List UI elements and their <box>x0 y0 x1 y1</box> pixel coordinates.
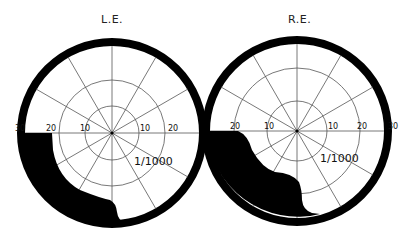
right-label-10b: 10 <box>328 122 338 131</box>
left-label-20b: 20 <box>168 124 178 133</box>
left-label-10a: 10 <box>80 124 90 133</box>
right-eye-chart: 20 10 10 20 30 1/1000 <box>206 40 398 222</box>
left-label-10b: 10 <box>140 124 150 133</box>
left-label-20: 20 <box>46 124 56 133</box>
right-field-loss <box>207 131 320 217</box>
right-label-10a: 10 <box>264 122 274 131</box>
right-isopter-label: 1/1000 <box>320 152 359 165</box>
left-field-loss <box>22 133 135 225</box>
left-eye-chart: 30 20 10 10 20 1/1000 <box>15 42 203 225</box>
left-isopter-label: 1/1000 <box>134 155 173 168</box>
right-label-30: 30 <box>388 122 398 131</box>
right-label-20: 20 <box>230 122 240 131</box>
visual-field-charts: 30 20 10 10 20 1/1000 20 10 10 20 30 1/1… <box>0 0 405 235</box>
right-label-20b: 20 <box>357 122 367 131</box>
left-label-30: 30 <box>15 124 25 133</box>
